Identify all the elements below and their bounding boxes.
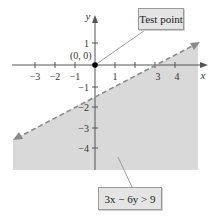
x-axis-label: x <box>200 69 206 81</box>
y-axis-label: y <box>85 10 91 22</box>
shaded-solution-region <box>13 43 198 170</box>
x-tick-label: 1 <box>113 71 118 82</box>
x-axis-arrow-icon <box>200 62 208 68</box>
y-tick-label: 1 <box>84 38 89 49</box>
test-point-dot <box>92 62 98 68</box>
test-point-callout: Test point <box>138 8 184 30</box>
x-tick-label: 4 <box>175 71 180 82</box>
x-tick-label: 3 <box>156 71 161 82</box>
x-tick-label: −2 <box>50 71 61 82</box>
x-tick-label: −3 <box>30 71 41 82</box>
x-tick-label: −1 <box>70 71 81 82</box>
y-tick-label: −4 <box>78 143 89 154</box>
y-tick-label: −3 <box>78 123 89 134</box>
test-point-pointer <box>95 28 148 65</box>
inequality-callout: 3x − 6y > 9 <box>98 187 162 210</box>
origin-label: (0, 0) <box>70 50 92 61</box>
y-axis-arrow-icon <box>92 15 98 23</box>
y-tick-label: −1 <box>78 82 89 93</box>
